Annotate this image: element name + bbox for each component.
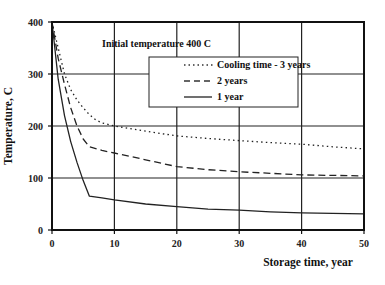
x-tick-label: 20	[172, 238, 182, 249]
series-lines	[52, 22, 364, 214]
x-axis-ticks: 01020304050	[50, 230, 370, 249]
x-tick-label: 10	[109, 238, 119, 249]
y-tick-label: 100	[28, 173, 43, 184]
legend: Cooling time - 3 years 2 years 1 year	[149, 57, 310, 107]
y-tick-label: 200	[28, 121, 43, 132]
grid-lines	[52, 22, 364, 230]
series-line-1-year	[52, 22, 364, 214]
legend-label-2-years: 2 years	[217, 75, 247, 86]
x-axis-title: Storage time, year	[263, 256, 353, 269]
x-tick-label: 50	[359, 238, 369, 249]
y-tick-label: 400	[28, 17, 43, 28]
y-axis-ticks: 0100200300400	[28, 17, 52, 236]
x-tick-label: 0	[50, 238, 55, 249]
y-tick-label: 0	[38, 225, 43, 236]
legend-label-3-years: Cooling time - 3 years	[217, 59, 310, 70]
x-tick-label: 30	[234, 238, 244, 249]
legend-label-1-year: 1 year	[217, 91, 244, 102]
x-tick-label: 40	[297, 238, 307, 249]
y-tick-label: 300	[28, 69, 43, 80]
temperature-chart: 0100200300400 01020304050 Temperature, C…	[0, 0, 385, 285]
initial-temperature-annotation: Initial temperature 400 C	[102, 38, 211, 49]
y-axis-title: Temperature, C	[2, 87, 15, 165]
